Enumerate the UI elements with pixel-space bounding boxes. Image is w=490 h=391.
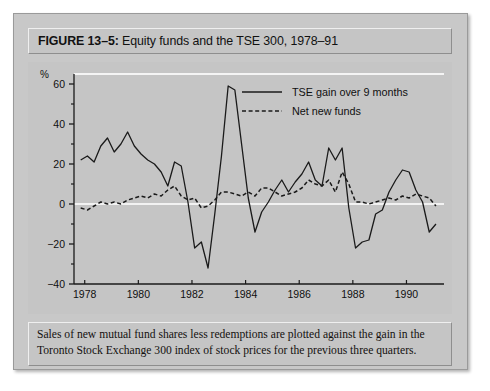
y-axis-tick-label: 20 bbox=[53, 158, 65, 170]
x-axis-tick-label: 1982 bbox=[180, 288, 204, 300]
percent-unit-label: % bbox=[40, 69, 49, 80]
legend-label-tse-gain: TSE gain over 9 months bbox=[292, 86, 408, 98]
legend-label-net-new-funds: Net new funds bbox=[292, 105, 362, 117]
figure-caption: Sales of new mutual fund shares less red… bbox=[37, 327, 443, 358]
x-axis-tick-label: 1990 bbox=[395, 288, 419, 300]
x-axis-tick-label: 1978 bbox=[73, 288, 97, 300]
y-axis-tick-label: 40 bbox=[53, 118, 65, 130]
y-axis-tick-label: 60 bbox=[53, 78, 65, 90]
chart-area: −40−200204060 19781980198219841986198819… bbox=[28, 62, 452, 314]
figure-title-bar: FIGURE 13–5: Equity funds and the TSE 30… bbox=[28, 28, 452, 54]
y-axis-tick-label: 0 bbox=[59, 198, 65, 210]
x-axis-tick-label: 1988 bbox=[341, 288, 365, 300]
figure-title: Equity funds and the TSE 300, 1978–91 bbox=[119, 34, 338, 48]
line-chart: −40−200204060 19781980198219841986198819… bbox=[28, 62, 452, 314]
y-axis-tick-label: −40 bbox=[47, 278, 65, 290]
x-axis-tick-label: 1986 bbox=[288, 288, 312, 300]
figure-number: FIGURE 13–5: bbox=[38, 34, 119, 48]
figure-panel: FIGURE 13–5: Equity funds and the TSE 30… bbox=[13, 13, 468, 370]
y-axis-unit-label: % bbox=[40, 69, 49, 80]
page-title: FIGURE 13–5: Equity funds and the TSE 30… bbox=[38, 34, 338, 48]
y-axis-tick-label: −20 bbox=[47, 238, 65, 250]
plot-background bbox=[28, 62, 452, 314]
x-axis-tick-label: 1984 bbox=[234, 288, 258, 300]
figure-caption-box: Sales of new mutual fund shares less red… bbox=[28, 322, 452, 366]
x-axis-tick-label: 1980 bbox=[127, 288, 151, 300]
